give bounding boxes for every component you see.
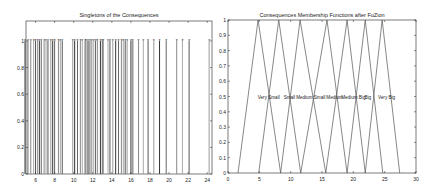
x-tick-label: 10 (288, 176, 294, 182)
y-tick-label: 0.9 (219, 32, 226, 38)
x-tick-label: 5 (258, 176, 261, 182)
y-tick-label: 0.6 (219, 78, 226, 84)
mf-label: Medium Small (296, 95, 325, 100)
x-tick-label: 0 (227, 176, 230, 182)
y-tick-label: 0.3 (219, 124, 226, 130)
mf-label: Big (364, 95, 371, 100)
mf-label: Small (284, 95, 296, 100)
x-tick-label: 30 (413, 176, 419, 182)
mf-label: Very Big (378, 95, 396, 100)
x-tick-label: 15 (319, 176, 325, 182)
mf-label: Very Small (258, 95, 280, 100)
y-tick-label: 0.5 (219, 94, 226, 100)
y-tick-label: 0.2 (219, 139, 226, 145)
y-tick-label: 1 (223, 17, 226, 23)
mf-label: Medium Big (341, 95, 366, 100)
y-tick-label: 0.7 (219, 63, 226, 69)
y-tick-label: 0.8 (219, 48, 226, 54)
y-tick-label: 0.1 (219, 155, 226, 161)
y-tick-label: 0.4 (219, 109, 226, 115)
x-tick-label: 25 (382, 176, 388, 182)
figure: Singletons of the Consequences Consequen… (0, 0, 434, 188)
membership-functions-plot: Very SmallSmallMedium SmallMediumMedium … (0, 0, 434, 188)
y-tick-label: 0 (223, 170, 226, 176)
x-tick-label: 20 (351, 176, 357, 182)
